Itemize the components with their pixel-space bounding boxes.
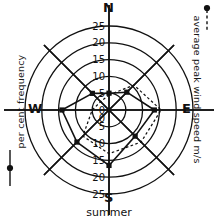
data-point-S: [106, 163, 111, 168]
compass-label-west: W: [28, 101, 42, 116]
compass-label-south: S: [104, 190, 113, 205]
compass-label-east: E: [182, 101, 191, 116]
series-1-frequency: [62, 92, 154, 165]
r-tick-lower-0: 0: [99, 113, 105, 124]
wind-rose-figure: per cent frequency average peak wind spe…: [0, 0, 218, 224]
r-tick-lower-15: 15: [92, 155, 105, 166]
r-tick-upper-25: 25: [92, 21, 105, 32]
data-point-NE: [124, 90, 129, 95]
r-tick-lower-10: 10: [92, 138, 105, 149]
data-point-NW: [90, 91, 95, 96]
compass-label-north: N: [103, 0, 114, 15]
data-point-SW: [74, 139, 79, 144]
r-tick-upper-5: 5: [99, 88, 105, 99]
r-tick-lower-20: 20: [92, 172, 105, 183]
data-point-SE: [133, 134, 138, 139]
data-point-W: [59, 107, 64, 112]
data-point-E: [152, 107, 157, 112]
r-tick-upper-20: 20: [92, 37, 105, 48]
r-tick-upper-10: 10: [92, 71, 105, 82]
r-tick-upper-15: 15: [92, 54, 105, 65]
chart-caption: summer: [0, 206, 218, 219]
